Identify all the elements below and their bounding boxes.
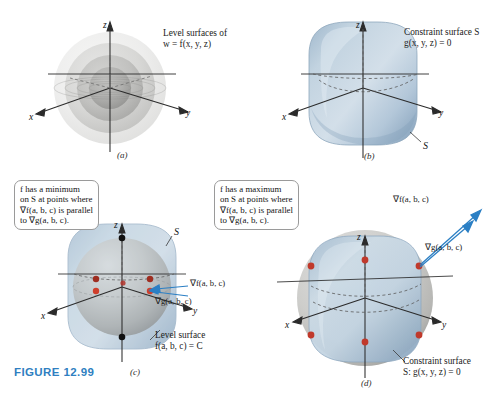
panel-d-gradient-f-label: ∇f(a, b, c) — [393, 194, 429, 205]
panel-d-callout: f has a maximum on S at points where ∇f(… — [214, 180, 299, 230]
panel-b-label: (b) — [364, 151, 375, 161]
panel-b-axis-y-label: y — [439, 108, 443, 118]
panel-c: z y x f has a minimum on S at points whe… — [0, 170, 247, 397]
panel-c-callout-line-3: ∇f(a, b, c) is parallel — [20, 205, 93, 215]
panel-c-callout-line-2: on S at points where — [20, 194, 93, 204]
panel-a-graphic — [0, 0, 247, 170]
panel-c-axis-y-label: y — [193, 306, 197, 316]
panel-d-gradient-g-label: ∇g(a, b, c) — [425, 242, 462, 253]
panel-c-level-surface-line-1: Level surface — [155, 330, 205, 341]
surface-label-leader — [410, 132, 421, 142]
panel-c-label: (c) — [130, 367, 140, 377]
panel-c-axis-z-label: z — [114, 220, 118, 230]
panel-d: z y x f has a maximum on S at points whe… — [247, 170, 495, 397]
panel-a-axis-y-label: y — [186, 108, 190, 118]
panel-d-constraint-line-2: S: g(x, y, z) = 0 — [403, 367, 461, 378]
panel-c-callout-line-4: to ∇g(a, b, c). — [20, 215, 93, 225]
panel-d-callout-line-3: ∇f(a, b, c) is parallel — [220, 205, 293, 215]
panel-b-caption-line-1: Constraint surface S — [404, 27, 479, 38]
panel-b-graphic — [247, 0, 495, 170]
panel-c-gradient-g-label: ∇g(a, b, c) — [155, 296, 192, 307]
panel-c-callout-line-1: f has a minimum — [20, 184, 93, 194]
panel-d-callout-line-2: on S at points where — [220, 194, 293, 204]
panel-b-caption-line-2: g(x, y, z) = 0 — [404, 38, 452, 49]
panel-a: z y x Level surfaces of w = f(x, y, z) (… — [0, 0, 247, 170]
figure-number-label: FIGURE 12.99 — [14, 366, 94, 378]
panel-b-axis-z-label: z — [356, 20, 360, 30]
panel-d-constraint-line-1: Constraint surface — [403, 356, 471, 367]
panel-c-surface-label: S — [174, 226, 179, 237]
panel-d-axis-z-label: z — [357, 232, 361, 242]
panel-b-axis-x-label: x — [282, 112, 286, 122]
panel-d-callout-line-1: f has a maximum — [220, 184, 293, 194]
figure-12-99: z y x Level surfaces of w = f(x, y, z) (… — [0, 0, 495, 397]
panel-d-axis-y-label: y — [442, 320, 446, 330]
panel-c-axis-x-label: x — [41, 311, 45, 321]
panel-a-axis-x-label: x — [29, 112, 33, 122]
panel-d-label: (d) — [361, 378, 372, 388]
panel-c-gradient-f-label: ∇f(a, b, c) — [190, 278, 225, 289]
panel-c-level-surface-line-2: f(a, b, c) = C — [155, 341, 203, 352]
panel-a-caption-line-2: w = f(x, y, z) — [163, 39, 211, 50]
panel-b: z y x Constraint surface S g(x, y, z) = … — [247, 0, 495, 170]
panel-d-axis-x-label: x — [285, 320, 289, 330]
gradient-arrows-d — [420, 210, 481, 267]
panel-a-label: (a) — [117, 150, 128, 160]
panel-a-caption-line-1: Level surfaces of — [163, 28, 227, 39]
panel-a-axis-z-label: z — [103, 20, 107, 30]
panel-b-surface-label: S — [423, 140, 428, 151]
panel-c-callout: f has a minimum on S at points where ∇f(… — [14, 180, 99, 230]
panel-d-callout-line-4: to ∇g(a, b, c). — [220, 215, 293, 225]
